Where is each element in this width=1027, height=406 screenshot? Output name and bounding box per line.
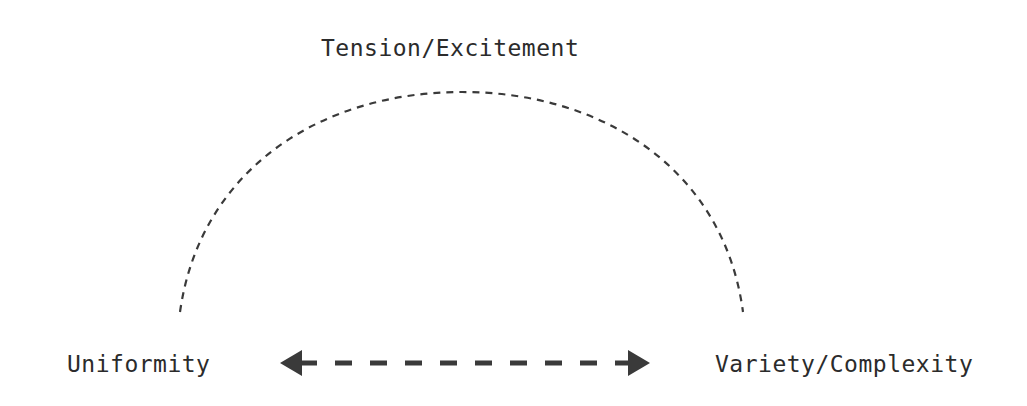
arrowhead-left-icon xyxy=(280,350,302,376)
variety-complexity-label: Variety/Complexity xyxy=(715,351,973,377)
uniformity-label: Uniformity xyxy=(67,351,210,377)
dashed-arc xyxy=(180,92,743,312)
arrowhead-right-icon xyxy=(628,350,650,376)
diagram-canvas xyxy=(0,0,1027,406)
